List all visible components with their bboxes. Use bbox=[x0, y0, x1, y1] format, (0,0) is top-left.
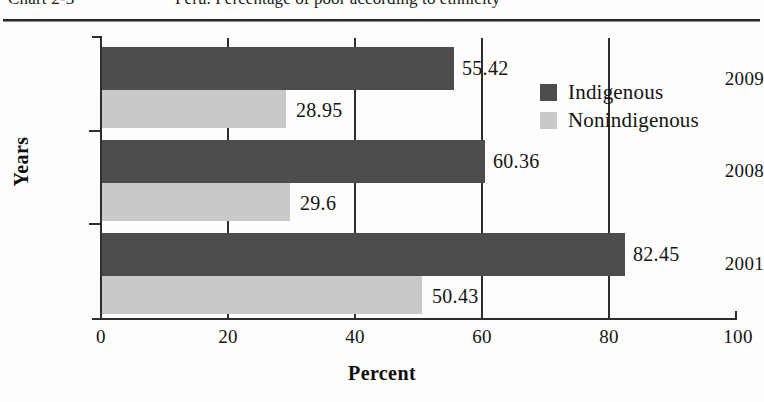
chart-screenshot: Chart 2-3 Peru. Percentage of poor accor… bbox=[0, 0, 764, 402]
bar-value-nonindigenous-2009: 28.95 bbox=[296, 99, 343, 122]
y-axis-tick bbox=[89, 130, 101, 132]
caption-divider bbox=[3, 19, 760, 21]
y-axis-title-wrap: Years bbox=[0, 150, 62, 173]
x-tick-label-40: 40 bbox=[345, 326, 365, 348]
bar-value-nonindigenous-2001: 50.43 bbox=[432, 285, 479, 308]
figure-caption: Chart 2-3 Peru. Percentage of poor accor… bbox=[0, 0, 764, 16]
legend-swatch-nonindigenous-icon bbox=[540, 112, 557, 129]
bar-value-indigenous-2008: 60.36 bbox=[493, 150, 540, 173]
x-tick-label-100: 100 bbox=[723, 326, 752, 348]
x-tick-label-80: 80 bbox=[599, 326, 619, 348]
legend-label-nonindigenous: Nonindigenous bbox=[568, 108, 699, 133]
caption-title: Peru. Percentage of poor according to et… bbox=[175, 0, 500, 9]
category-label-2008: 2008 bbox=[672, 160, 764, 182]
bar-indigenous-2009 bbox=[102, 47, 454, 90]
caption-label: Chart 2-3 bbox=[8, 0, 74, 9]
legend-item-nonindigenous[interactable]: Nonindigenous bbox=[540, 106, 699, 134]
y-axis-title: Years bbox=[10, 137, 33, 187]
category-label-2001: 2001 bbox=[672, 253, 764, 275]
legend: Indigenous Nonindigenous bbox=[540, 78, 699, 134]
bar-nonindigenous-2008 bbox=[102, 183, 290, 221]
bar-indigenous-2008 bbox=[102, 140, 485, 183]
bar-nonindigenous-2009 bbox=[102, 90, 286, 128]
x-axis-line bbox=[100, 318, 736, 320]
bar-value-indigenous-2001: 82.45 bbox=[633, 243, 680, 266]
bar-value-indigenous-2009: 55.42 bbox=[462, 57, 509, 80]
legend-label-indigenous: Indigenous bbox=[568, 80, 663, 105]
x-tick-label-20: 20 bbox=[218, 326, 238, 348]
legend-item-indigenous[interactable]: Indigenous bbox=[540, 78, 699, 106]
x-axis-tick bbox=[608, 311, 610, 320]
x-axis-tick bbox=[481, 311, 483, 320]
bar-nonindigenous-2001 bbox=[102, 276, 422, 314]
x-tick-label-0: 0 bbox=[96, 326, 106, 348]
x-tick-label-60: 60 bbox=[472, 326, 492, 348]
x-axis-tick bbox=[735, 311, 737, 320]
y-axis-top-cap bbox=[92, 36, 102, 38]
bar-value-nonindigenous-2008: 29.6 bbox=[300, 192, 336, 215]
legend-swatch-indigenous-icon bbox=[540, 84, 557, 101]
bar-indigenous-2001 bbox=[102, 233, 625, 276]
x-axis-title: Percent bbox=[0, 362, 764, 385]
y-axis-tick bbox=[89, 223, 101, 225]
